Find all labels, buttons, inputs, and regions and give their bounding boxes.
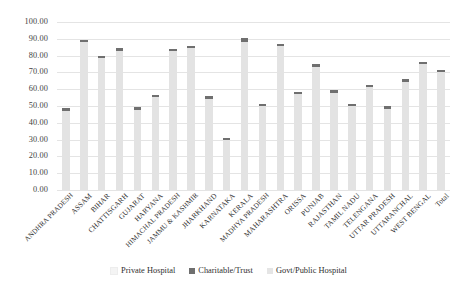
bar-segment-charitable-trust	[187, 46, 195, 48]
bar-segment-charitable-trust	[134, 107, 142, 110]
bar-segment-govt-public-hospital	[205, 99, 213, 190]
bar-segment-charitable-trust	[80, 40, 88, 42]
plot-area	[57, 22, 450, 190]
bar-segment-govt-public-hospital	[384, 109, 392, 190]
bar-segment-govt-public-hospital	[62, 111, 70, 190]
bar-segment-govt-public-hospital	[134, 110, 142, 190]
bar-segment-govt-public-hospital	[241, 42, 249, 190]
y-axis-tick-label: 90.00	[29, 35, 48, 43]
legend-label: Charitable/Trust	[198, 266, 253, 275]
bar-segment-charitable-trust	[312, 64, 320, 66]
bar-group[interactable]	[312, 22, 320, 190]
bar-group[interactable]	[98, 22, 106, 190]
bar-segment-charitable-trust	[294, 92, 302, 94]
bar-segment-govt-public-hospital	[187, 48, 195, 190]
bar-segment-charitable-trust	[241, 38, 249, 41]
bar-segment-govt-public-hospital	[312, 67, 320, 190]
bar-segment-govt-public-hospital	[437, 72, 445, 190]
chart-legend: Private HospitalCharitable/TrustGovt/Pub…	[0, 266, 457, 275]
bar-group[interactable]	[402, 22, 410, 190]
bar-segment-govt-public-hospital	[80, 42, 88, 190]
legend-item[interactable]: Charitable/Trust	[189, 266, 253, 275]
x-axis-category-labels: ANDHRA PRADESHASSAMBIHARCHATTISGARHGUJAR…	[57, 190, 450, 268]
bar-segment-charitable-trust	[62, 108, 70, 111]
bar-segment-charitable-trust	[366, 85, 374, 87]
y-axis-tick-label: 0.00	[33, 186, 48, 194]
bar-segment-govt-public-hospital	[294, 94, 302, 190]
bar-segment-charitable-trust	[437, 70, 445, 72]
bar-segment-govt-public-hospital	[419, 64, 427, 190]
bar-segment-govt-public-hospital	[223, 140, 231, 190]
bar-segment-charitable-trust	[348, 104, 356, 106]
bar-segment-charitable-trust	[419, 62, 427, 64]
legend-label: Private Hospital	[121, 266, 175, 275]
bar-group[interactable]	[366, 22, 374, 190]
bar-group[interactable]	[116, 22, 124, 190]
bar-segment-charitable-trust	[116, 48, 124, 51]
bar-segment-charitable-trust	[330, 90, 338, 92]
bar-chart: 100.0090.0080.0070.0060.0050.0040.0030.0…	[0, 0, 457, 297]
bar-group[interactable]	[169, 22, 177, 190]
bar-group[interactable]	[80, 22, 88, 190]
legend-label: Govt/Public Hospital	[276, 266, 347, 275]
legend-item[interactable]: Private Hospital	[110, 266, 175, 275]
bar-group[interactable]	[294, 22, 302, 190]
bar-segment-charitable-trust	[223, 138, 231, 140]
bar-segment-charitable-trust	[259, 104, 267, 106]
y-axis-tick-label: 80.00	[29, 51, 48, 59]
bar-segment-charitable-trust	[98, 56, 106, 58]
legend-swatch-icon	[110, 267, 118, 275]
legend-swatch-icon	[189, 268, 195, 274]
bar-group[interactable]	[277, 22, 285, 190]
bar-segment-charitable-trust	[277, 44, 285, 46]
bar-group[interactable]	[152, 22, 160, 190]
bar-segment-charitable-trust	[169, 49, 177, 51]
bar-group[interactable]	[384, 22, 392, 190]
bar-segment-charitable-trust	[152, 95, 160, 97]
bar-series-container	[57, 22, 450, 190]
bar-segment-govt-public-hospital	[402, 82, 410, 190]
bar-group[interactable]	[223, 22, 231, 190]
bar-group[interactable]	[330, 22, 338, 190]
bar-group[interactable]	[134, 22, 142, 190]
y-axis-tick-label: 10.00	[29, 169, 48, 177]
bar-segment-charitable-trust	[402, 79, 410, 81]
bar-segment-govt-public-hospital	[152, 97, 160, 190]
bar-group[interactable]	[187, 22, 195, 190]
y-axis-tick-label: 100.00	[25, 18, 48, 26]
bar-segment-govt-public-hospital	[277, 46, 285, 190]
y-axis-tick-label: 50.00	[29, 102, 48, 110]
bar-segment-govt-public-hospital	[348, 106, 356, 190]
bar-group[interactable]	[419, 22, 427, 190]
bar-segment-charitable-trust	[384, 106, 392, 108]
y-axis-tick-label: 70.00	[29, 68, 48, 76]
y-axis-tick-label: 20.00	[29, 152, 48, 160]
bar-group[interactable]	[205, 22, 213, 190]
bar-group[interactable]	[437, 22, 445, 190]
bar-segment-govt-public-hospital	[98, 58, 106, 190]
y-axis-tick-label: 40.00	[29, 119, 48, 127]
bar-segment-charitable-trust	[205, 96, 213, 99]
bar-group[interactable]	[241, 22, 249, 190]
bar-segment-govt-public-hospital	[366, 87, 374, 190]
legend-item[interactable]: Govt/Public Hospital	[267, 266, 347, 275]
bar-segment-govt-public-hospital	[169, 51, 177, 190]
bar-segment-govt-public-hospital	[259, 106, 267, 190]
y-axis-tick-label: 60.00	[29, 85, 48, 93]
y-axis-tick-label: 30.00	[29, 135, 48, 143]
y-axis-tick-labels: 100.0090.0080.0070.0060.0050.0040.0030.0…	[0, 22, 52, 190]
legend-swatch-icon	[267, 268, 273, 274]
bar-group[interactable]	[259, 22, 267, 190]
bar-segment-govt-public-hospital	[116, 51, 124, 190]
bar-group[interactable]	[62, 22, 70, 190]
bar-group[interactable]	[348, 22, 356, 190]
bar-segment-govt-public-hospital	[330, 93, 338, 190]
